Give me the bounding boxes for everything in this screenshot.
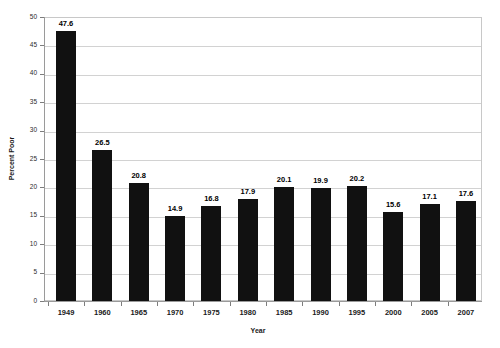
bar-value-label: 17.1 <box>410 193 450 201</box>
y-tick-label: 20 <box>13 184 37 191</box>
x-tick-label: 1995 <box>337 309 377 317</box>
y-tick-mark <box>40 187 44 188</box>
y-tick-mark <box>40 216 44 217</box>
x-tick-label: 1985 <box>264 309 304 317</box>
bar <box>238 199 258 301</box>
bar-value-label: 20.8 <box>119 172 159 180</box>
y-tick-label: 35 <box>13 99 37 106</box>
bar <box>456 201 476 301</box>
x-tick-mark <box>121 302 122 306</box>
bar-value-label: 16.8 <box>191 195 231 203</box>
y-tick-label: 45 <box>13 42 37 49</box>
x-tick-mark <box>411 302 412 306</box>
x-tick-label: 2005 <box>410 309 450 317</box>
y-tick-mark <box>40 45 44 46</box>
x-tick-mark <box>266 302 267 306</box>
y-tick-label: 30 <box>13 127 37 134</box>
x-tick-mark <box>448 302 449 306</box>
y-tick-label: 5 <box>13 269 37 276</box>
y-tick-mark <box>40 159 44 160</box>
bar <box>383 212 403 301</box>
x-tick-label: 1970 <box>155 309 195 317</box>
bar-chart: 05101520253035404550 47.626.520.814.916.… <box>0 0 500 348</box>
bar-value-label: 47.6 <box>46 20 86 28</box>
bar-value-label: 15.6 <box>373 201 413 209</box>
y-tick-mark <box>40 17 44 18</box>
bar <box>311 188 331 301</box>
y-tick-mark <box>40 301 44 302</box>
x-tick-mark <box>157 302 158 306</box>
x-tick-label: 1980 <box>228 309 268 317</box>
y-tick-label: 0 <box>13 298 37 305</box>
gridline <box>45 46 481 47</box>
bar <box>347 186 367 301</box>
y-tick-mark <box>40 102 44 103</box>
x-tick-mark <box>84 302 85 306</box>
x-tick-mark <box>375 302 376 306</box>
x-axis-title: Year <box>238 327 278 334</box>
bar-value-label: 20.1 <box>264 176 304 184</box>
bar <box>420 204 440 301</box>
bar-value-label: 14.9 <box>155 205 195 213</box>
x-tick-label: 2007 <box>446 309 486 317</box>
bar-value-label: 26.5 <box>82 139 122 147</box>
y-tick-label: 10 <box>13 241 37 248</box>
gridline <box>45 132 481 133</box>
y-axis-title: Percent Poor <box>8 129 15 189</box>
y-tick-label: 15 <box>13 212 37 219</box>
y-tick-label: 50 <box>13 14 37 21</box>
bar <box>201 206 221 301</box>
x-tick-label: 1990 <box>301 309 341 317</box>
y-tick-mark <box>40 131 44 132</box>
bar <box>129 183 149 301</box>
x-tick-label: 1965 <box>119 309 159 317</box>
x-tick-label: 1960 <box>82 309 122 317</box>
x-tick-label: 2000 <box>373 309 413 317</box>
x-tick-mark <box>193 302 194 306</box>
bar-value-label: 20.2 <box>337 175 377 183</box>
bar <box>56 31 76 301</box>
x-axis-line <box>44 301 482 302</box>
bar-value-label: 17.6 <box>446 190 486 198</box>
bar-value-label: 17.9 <box>228 188 268 196</box>
gridline <box>45 75 481 76</box>
bar <box>165 216 185 301</box>
bar <box>92 150 112 301</box>
y-tick-mark <box>40 74 44 75</box>
x-tick-mark <box>48 302 49 306</box>
bar <box>274 187 294 301</box>
x-tick-label: 1975 <box>191 309 231 317</box>
y-tick-label: 25 <box>13 156 37 163</box>
y-tick-label: 40 <box>13 70 37 77</box>
x-tick-mark <box>339 302 340 306</box>
x-tick-mark <box>230 302 231 306</box>
y-tick-mark <box>40 273 44 274</box>
bar-value-label: 19.9 <box>301 177 341 185</box>
x-tick-label: 1949 <box>46 309 86 317</box>
gridline <box>45 103 481 104</box>
y-axis-line <box>44 17 45 302</box>
x-tick-mark <box>302 302 303 306</box>
y-tick-mark <box>40 244 44 245</box>
